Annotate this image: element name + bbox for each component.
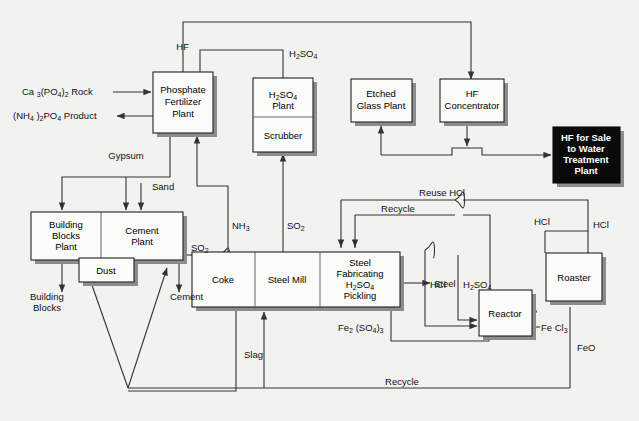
phosphate-plant-line1: Phosphate <box>160 84 205 95</box>
label-building-blocks-out-2: Blocks <box>33 302 61 313</box>
box-reactor[interactable]: Reactor <box>479 290 536 340</box>
dust-label: Dust <box>96 265 116 276</box>
reactor-label: Reactor <box>488 308 521 319</box>
h2so4-plant-line3: Plant <box>272 100 294 111</box>
box-roaster[interactable]: Roaster <box>546 253 606 305</box>
label-building-blocks-out-1: Building <box>30 291 64 302</box>
wire-hf-dist-bus <box>381 148 545 155</box>
label-so2-left: SO2 <box>191 242 209 254</box>
box-steel-group[interactable]: Coke Steel Mill Steel Fabricating H2SO4 … <box>192 252 404 311</box>
phosphate-plant-line3: Plant <box>172 108 194 119</box>
building-blocks-plant-line2: Blocks <box>52 230 80 241</box>
steel-mill-label: Steel Mill <box>268 274 307 285</box>
hf-sale-line4: Plant <box>574 165 598 176</box>
steel-fab-line2: Fabricating <box>337 268 384 279</box>
label-sand: Sand <box>152 181 174 192</box>
box-h2so4-plant[interactable]: H2SO4 Plant Scrubber <box>253 78 317 156</box>
building-blocks-plant-line3: Plant <box>55 241 77 252</box>
process-flow-diagram: Phosphate Fertilizer Plant H2SO4 Plant S… <box>0 0 639 421</box>
wire-hcl-jump <box>425 242 435 258</box>
wire-gypsum-to-blocks <box>62 135 170 210</box>
label-recycle-bottom: Recycle <box>385 376 419 387</box>
coke-label: Coke <box>212 274 234 285</box>
label-fecl3: Fe Cl3 <box>541 322 568 334</box>
label-so2-right: SO2 <box>287 220 305 232</box>
label-ca3po42-rock: Ca 3(PO4)2 Rock <box>22 86 93 98</box>
wire-nh3-to-phosphate <box>197 136 228 255</box>
label-steel-out: Steel <box>434 278 456 289</box>
flow-diagram-canvas: Phosphate Fertilizer Plant H2SO4 Plant S… <box>0 0 639 421</box>
phosphate-plant-line2: Fertilizer <box>165 96 201 107</box>
hf-sale-line1: HF for Sale <box>561 132 611 143</box>
steel-fab-line1: Steel <box>349 257 371 268</box>
label-gypsum: Gypsum <box>108 150 143 161</box>
label-slag: Slag <box>244 349 263 360</box>
label-nh3: NH3 <box>232 220 250 232</box>
cement-plant-line1: Cement <box>125 225 159 236</box>
hf-concentrator-line2: Concentrator <box>445 100 500 111</box>
label-recycle-top: Recycle <box>381 203 415 214</box>
scrubber-label: Scrubber <box>264 130 303 141</box>
steel-fab-line4: Pickling <box>344 290 377 301</box>
etched-glass-line2: Glass Plant <box>357 100 406 111</box>
label-h2so4-top: H2SO4 <box>289 48 318 60</box>
box-dust[interactable]: Dust <box>79 258 138 286</box>
roaster-label: Roaster <box>557 272 590 283</box>
box-blocks-cement-group[interactable]: Building Blocks Plant Cement Plant <box>31 212 187 264</box>
label-hf: HF <box>176 41 189 52</box>
label-reuse-hcl: Reuse HCl <box>419 187 465 198</box>
hf-sale-line2: to Water <box>567 143 605 154</box>
label-fe2so43: Fe2 (SO4)3 <box>338 322 384 334</box>
etched-glass-line1: Etched <box>366 88 396 99</box>
box-phosphate-fertilizer-plant[interactable]: Phosphate Fertilizer Plant <box>153 72 217 137</box>
label-h2so4-reactor: H2SO4 <box>463 279 492 291</box>
label-feo: FeO <box>577 342 595 353</box>
hf-concentrator-line1: HF <box>466 88 479 99</box>
building-blocks-plant-line1: Building <box>49 219 83 230</box>
wire-slag <box>130 311 236 391</box>
cement-plant-line2: Plant <box>131 236 153 247</box>
label-hcl-right: HCl <box>593 219 609 230</box>
label-cement-out: Cement <box>170 291 204 302</box>
box-etched-glass-plant[interactable]: Etched Glass Plant <box>351 79 416 126</box>
box-hf-concentrator[interactable]: HF Concentrator <box>440 79 508 126</box>
box-hf-for-sale[interactable]: HF for Sale to Water Treatment Plant <box>553 127 624 187</box>
label-hcl-roaster-in: HCl <box>534 216 550 227</box>
label-nh42po4-product: (NH4 )2PO4 Product <box>13 110 97 122</box>
wire-reuse-hcl-right <box>463 200 588 253</box>
hf-sale-line3: Treatment <box>563 154 609 165</box>
